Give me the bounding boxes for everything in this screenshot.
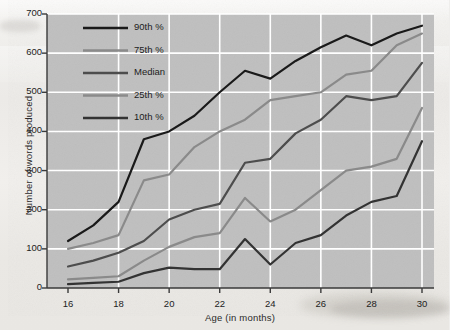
x-tick-label: 28: [356, 298, 386, 309]
legend-label-1: 90th %: [134, 21, 164, 32]
x-axis-title: Age (in months): [150, 312, 330, 323]
legend-label-4: 25th %: [134, 89, 164, 100]
x-tick-label: 24: [255, 298, 285, 309]
legend-label-2: 75th %: [134, 44, 164, 55]
legend-label-3: Median: [134, 66, 165, 77]
y-tick-label: 600: [6, 46, 42, 57]
y-axis-title: Number of words produced: [23, 81, 34, 231]
x-tick-label: 30: [407, 298, 437, 309]
x-axis-ticks: 1618202224262830: [0, 291, 449, 311]
y-tick-label: 100: [6, 242, 42, 253]
x-tick-label: 22: [205, 298, 235, 309]
x-tick-label: 26: [306, 298, 336, 309]
y-tick-label: 700: [6, 7, 42, 18]
legend-label-5: 10th %: [134, 111, 164, 122]
x-tick-label: 18: [104, 298, 134, 309]
x-tick-label: 16: [53, 298, 83, 309]
x-tick-label: 20: [154, 298, 184, 309]
plot-grain-overlay: [47, 14, 434, 288]
